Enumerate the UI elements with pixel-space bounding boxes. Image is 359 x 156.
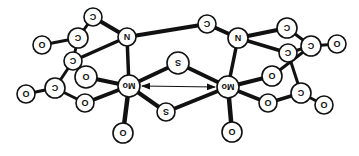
atom-label: C xyxy=(203,19,210,29)
atom-label: O xyxy=(82,72,89,82)
atom-s2: S xyxy=(157,103,175,121)
atom-label: C xyxy=(74,33,81,43)
atom-c8: C xyxy=(301,36,321,56)
atom-o10: O xyxy=(222,122,242,142)
atom-label: O xyxy=(333,39,340,49)
atom-o9: O xyxy=(315,96,333,114)
atom-label: N xyxy=(235,33,242,43)
atom-o2: O xyxy=(75,66,97,88)
atom-label: C xyxy=(69,56,76,66)
atom-o8: O xyxy=(259,94,277,112)
atom-label: O xyxy=(119,128,126,138)
atom-label: S xyxy=(175,58,181,68)
atom-c7: C xyxy=(279,44,297,62)
mo-mo-distance-arrow xyxy=(142,86,215,87)
atom-label: Mo xyxy=(221,82,234,92)
atom-label: C xyxy=(297,88,304,98)
atom-label: O xyxy=(81,98,88,108)
atom-o7: O xyxy=(262,66,282,86)
atom-label: C xyxy=(307,41,314,51)
bond-n1-c5 xyxy=(127,24,207,37)
atom-label: N xyxy=(124,32,131,42)
atom-c5: C xyxy=(198,15,216,33)
atom-o6: O xyxy=(328,35,346,53)
atom-n1: N xyxy=(118,28,136,46)
atom-o4: O xyxy=(76,94,94,112)
atom-label: O xyxy=(38,40,45,50)
atom-o5: O xyxy=(113,123,133,143)
atom-label: O xyxy=(264,98,271,108)
atom-c2: C xyxy=(68,28,88,48)
atom-label: C xyxy=(89,12,96,22)
molecule-structure: CNCOCOCOOMoOSSNCCCCOOMoOCOO xyxy=(0,0,359,156)
atom-o1: O xyxy=(33,36,51,54)
atom-label: O xyxy=(268,71,275,81)
atom-o3: O xyxy=(17,85,35,103)
atom-label: O xyxy=(22,89,29,99)
atom-label: Mo xyxy=(122,81,135,91)
atom-c6: C xyxy=(277,18,297,38)
atom-c1: C xyxy=(84,8,102,26)
atom-mo2: Mo xyxy=(217,76,239,98)
atom-label: O xyxy=(228,127,235,137)
atom-label: S xyxy=(163,107,169,117)
atom-label: C xyxy=(284,48,291,58)
atom-c9: C xyxy=(291,83,311,103)
atom-n2: N xyxy=(228,28,248,48)
atom-s1: S xyxy=(167,52,189,74)
atom-label: C xyxy=(283,23,290,33)
atom-c4: C xyxy=(45,78,65,98)
molecule-diagram: CNCOCOCOOMoOSSNCCCCOOMoOCOO xyxy=(0,0,359,156)
atom-label: O xyxy=(320,100,327,110)
atom-mo1: Mo xyxy=(118,75,140,97)
atom-label: C xyxy=(51,83,58,93)
